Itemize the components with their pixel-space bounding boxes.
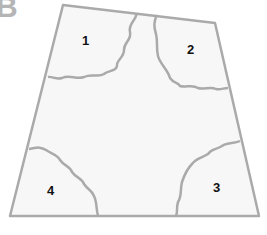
quadrant-diagram: 1 2 3 4 bbox=[0, 0, 267, 235]
region-3-label: 3 bbox=[213, 180, 220, 195]
region-4-label: 4 bbox=[47, 183, 55, 198]
region-1-label: 1 bbox=[82, 33, 89, 48]
region-2-label: 2 bbox=[187, 42, 194, 57]
